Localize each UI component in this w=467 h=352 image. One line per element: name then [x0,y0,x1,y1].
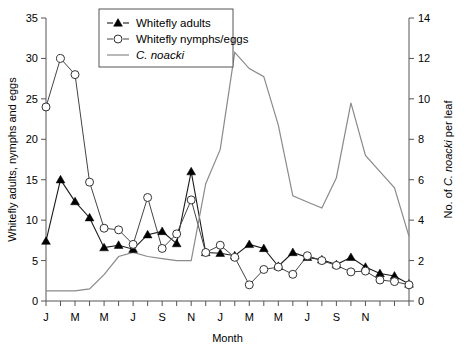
data-point-whitefly-adults [245,240,254,248]
data-point-whitefly-nymphs-eggs [318,257,326,265]
data-point-whitefly-nymphs-eggs [187,196,195,204]
whitefly-noacki-line-chart: 0510152025303502468101214JMMJSNJMMJSN Wh… [0,0,467,352]
x-axis-title: Month [212,332,243,344]
legend-label: C. noacki [136,49,184,61]
y-axis-tick-label: 10 [26,214,38,226]
legend-label: Whitefly adults [136,17,211,29]
legend-layer: Whitefly adultsWhitefly nymphs/eggsC. no… [99,9,249,67]
y2-axis-tick-label: 6 [418,174,424,186]
data-point-whitefly-nymphs-eggs [405,281,413,289]
x-axis-tick-label: J [43,311,49,323]
data-point-whitefly-nymphs-eggs [100,224,108,232]
x-axis-tick-label: N [361,311,369,323]
y2-axis-tick-label: 14 [418,12,430,24]
data-point-whitefly-nymphs-eggs [231,253,239,261]
y2-axis-tick-label: 12 [418,52,430,64]
y2-axis-tick-label: 8 [418,133,424,145]
data-point-whitefly-nymphs-eggs [86,178,94,186]
data-point-whitefly-nymphs-eggs [303,252,311,260]
data-point-whitefly-nymphs-eggs [144,194,152,202]
y2-axis-title: No. of C. noacki per leaf [442,100,454,219]
data-point-whitefly-adults [187,167,196,175]
data-point-whitefly-nymphs-eggs [260,265,268,273]
chart-container: 0510152025303502468101214JMMJSNJMMJSN Wh… [0,0,467,352]
data-point-whitefly-nymphs-eggs [57,54,65,62]
data-point-whitefly-adults [42,237,51,245]
legend-marker-open-circle [114,35,122,43]
data-point-whitefly-nymphs-eggs [289,270,297,278]
x-axis-tick-label: M [70,311,79,323]
x-axis-tick-label: J [130,311,136,323]
data-point-whitefly-nymphs-eggs [158,244,166,252]
y-axis-tick-label: 20 [26,133,38,145]
legend-label: Whitefly nymphs/eggs [136,33,249,45]
data-point-whitefly-nymphs-eggs [173,230,181,238]
y-axis-tick-label: 5 [32,255,38,267]
x-axis-tick-label: S [333,311,340,323]
y2-axis-tick-label: 10 [418,93,430,105]
y2-axis-tick-label: 2 [418,255,424,267]
data-point-whitefly-nymphs-eggs [390,278,398,286]
x-axis-tick-label: M [274,311,283,323]
data-point-whitefly-adults [71,197,80,205]
x-axis-tick-label: S [158,311,165,323]
y-axis-tick-label: 25 [26,93,38,105]
y-axis-title: Whitefly adults, nymphs and eggs [6,77,18,242]
data-point-whitefly-nymphs-eggs [115,226,123,234]
data-point-whitefly-nymphs-eggs [216,241,224,249]
y2-axis-tick-label: 0 [418,295,424,307]
data-point-whitefly-nymphs-eggs [245,281,253,289]
axis-titles-layer: MonthWhitefly adults, nymphs and eggsNo.… [6,77,454,344]
y-axis-tick-label: 15 [26,174,38,186]
y-axis-tick-label: 0 [32,295,38,307]
y-axis-tick-label: 30 [26,52,38,64]
data-point-whitefly-nymphs-eggs [376,276,384,284]
data-point-whitefly-nymphs-eggs [332,261,340,269]
x-axis-tick-label: J [305,311,311,323]
data-point-whitefly-adults [158,227,167,235]
y2-axis-tick-label: 4 [418,214,424,226]
series-line-c-noacki [46,52,409,291]
y-axis-tick-label: 35 [26,12,38,24]
x-axis-tick-label: N [187,311,195,323]
data-point-whitefly-nymphs-eggs [347,268,355,276]
x-axis-tick-label: J [217,311,223,323]
x-axis-tick-label: M [99,311,108,323]
data-point-whitefly-nymphs-eggs [202,248,210,256]
data-point-whitefly-adults [56,175,65,183]
data-point-whitefly-adults [347,253,356,261]
series-layer [42,52,414,291]
data-point-whitefly-nymphs-eggs [361,267,369,275]
x-axis-tick-label: M [245,311,254,323]
data-point-whitefly-adults [288,248,297,256]
data-point-whitefly-nymphs-eggs [129,240,137,248]
data-point-whitefly-nymphs-eggs [71,71,79,79]
data-point-whitefly-nymphs-eggs [42,103,50,111]
data-point-whitefly-adults [114,241,123,249]
data-point-whitefly-nymphs-eggs [274,263,282,271]
